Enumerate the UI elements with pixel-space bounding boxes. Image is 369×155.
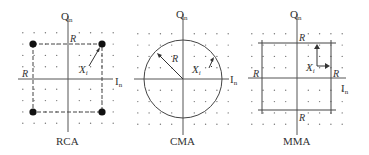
mma-panel: R R R R Xi Qn In MMA xyxy=(248,8,349,147)
rca-r-label-top: R xyxy=(69,33,76,44)
rca-arrowhead-icon xyxy=(96,47,100,52)
rca-error-arrow xyxy=(89,49,99,66)
cma-q-label: Qn xyxy=(176,8,188,22)
rca-point-bottom-right xyxy=(98,108,105,115)
cma-radius-arrow xyxy=(159,55,183,79)
cma-error-arrow xyxy=(211,66,212,67)
cma-x-label: Xi xyxy=(191,63,201,77)
mma-q-label: Qn xyxy=(290,8,302,22)
rca-q-label: Qn xyxy=(61,10,73,24)
mma-r-label-right: R xyxy=(332,68,339,79)
cma-error-arrowhead-icon xyxy=(210,57,214,62)
cma-caption: CMA xyxy=(170,135,195,147)
rca-x-label: Xi xyxy=(78,63,88,77)
cma-r-label: R xyxy=(171,53,178,64)
cma-panel: R Xi Qn In CMA xyxy=(134,8,238,147)
mma-caption: MMA xyxy=(283,135,311,147)
mma-horizontal-arrowhead-icon xyxy=(325,63,330,69)
rca-i-label: In xyxy=(115,75,123,89)
mma-r-label-bottom: R xyxy=(298,112,305,123)
rca-point-top-left xyxy=(29,40,36,47)
rca-panel: Qn In R R Xi RCA xyxy=(18,10,123,147)
rca-point-top-right xyxy=(98,40,105,47)
rca-caption: RCA xyxy=(56,135,79,147)
constellation-diagram: Qn In R R Xi RCA R Xi Qn In CMA xyxy=(0,0,369,155)
rca-r-label-left: R xyxy=(21,68,28,79)
cma-i-label: In xyxy=(230,73,238,87)
mma-x-label: Xi xyxy=(305,61,315,75)
rca-point-bottom-left xyxy=(29,108,36,115)
mma-r-label-left: R xyxy=(252,68,259,79)
mma-r-label-top: R xyxy=(298,32,305,43)
mma-i-label: In xyxy=(341,82,349,96)
